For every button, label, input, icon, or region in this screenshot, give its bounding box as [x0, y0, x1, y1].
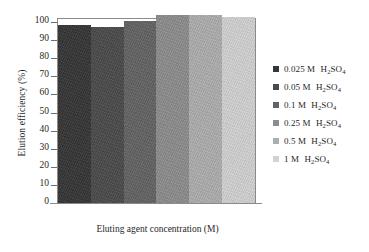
bar — [189, 15, 222, 203]
bar — [58, 25, 91, 203]
x-axis-line — [50, 203, 262, 204]
y-tick-label-0: 0 — [7, 197, 49, 207]
legend-swatch-icon — [273, 102, 279, 108]
y-tick-label-30: 30 — [7, 143, 49, 153]
legend-item[interactable]: 0.5 M H2SO4 — [273, 132, 369, 150]
bar-texture — [91, 27, 124, 203]
legend-item-label: 0.5 M H2SO4 — [284, 136, 336, 146]
y-tick-label-90: 90 — [7, 34, 49, 44]
y-tick-label-20: 20 — [7, 161, 49, 171]
legend-item-label: 0.025 M H2SO4 — [284, 64, 346, 74]
legend-item[interactable]: 0.05 M H2SO4 — [273, 78, 369, 96]
legend-swatch-icon — [273, 138, 279, 144]
bar — [91, 27, 124, 203]
y-tick-label-70: 70 — [7, 70, 49, 80]
legend-swatch-icon — [273, 156, 279, 162]
legend-item-label: 0.25 M H2SO4 — [284, 118, 341, 128]
legend-item-label: 0.1 M H2SO4 — [284, 100, 336, 110]
bar-texture — [58, 25, 91, 203]
bar-texture — [156, 15, 189, 203]
y-tick-label-100: 100 — [7, 16, 49, 26]
legend-swatch-icon — [273, 120, 279, 126]
chart-legend: 0.025 M H2SO40.05 M H2SO40.1 M H2SO40.25… — [273, 60, 369, 168]
y-tick-label-40: 40 — [7, 125, 49, 135]
legend-item[interactable]: 0.025 M H2SO4 — [273, 60, 369, 78]
y-tick-label-80: 80 — [7, 52, 49, 62]
bar-texture — [189, 15, 222, 203]
legend-item[interactable]: 0.1 M H2SO4 — [273, 96, 369, 114]
legend-item-label: 1 M H2SO4 — [284, 154, 329, 164]
legend-item[interactable]: 1 M H2SO4 — [273, 150, 369, 168]
y-tick-label-60: 60 — [7, 88, 49, 98]
bar — [124, 21, 157, 203]
x-axis-title: Eluting agent concentration (M) — [40, 224, 275, 234]
y-tick-label-50: 50 — [7, 107, 49, 117]
legend-swatch-icon — [273, 84, 279, 90]
bar-texture — [222, 17, 255, 203]
bar — [156, 15, 189, 203]
legend-item-label: 0.05 M H2SO4 — [284, 82, 341, 92]
bar-series — [58, 18, 255, 203]
legend-item[interactable]: 0.25 M H2SO4 — [273, 114, 369, 132]
y-tick-label-10: 10 — [7, 179, 49, 189]
bar-chart-figure: Elution efficiency (%) 01020304050607080… — [0, 0, 369, 252]
legend-swatch-icon — [273, 66, 279, 72]
bar-texture — [124, 21, 157, 203]
bar — [222, 17, 255, 203]
